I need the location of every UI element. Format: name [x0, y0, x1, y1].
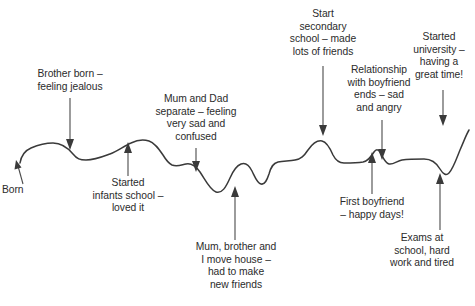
- label-exams: Exams at school, hard work and tired: [374, 232, 470, 270]
- arrow-infants-school: [124, 142, 132, 176]
- label-born: Born: [2, 184, 44, 197]
- arrow-relationship-ends: [378, 120, 386, 160]
- arrow-move-house: [231, 186, 239, 240]
- arrow-brother-born: [66, 98, 74, 150]
- arrow-mum-dad-separate: [192, 148, 200, 172]
- label-first-boyfriend: First boyfriend – happy days!: [324, 196, 420, 221]
- label-brother-born: Brother born – feeling jealous: [12, 68, 128, 93]
- label-university: Started university – having a great time…: [404, 31, 474, 81]
- label-infants-school: Started infants school – loved it: [72, 177, 184, 215]
- arrow-secondary-school: [319, 66, 327, 136]
- label-secondary-school: Start secondary school – made lots of fr…: [267, 8, 379, 58]
- label-move-house: Mum, brother and I move house – had to m…: [180, 241, 292, 291]
- life-graph-figure: Born Brother born – feeling jealous Star…: [0, 0, 475, 306]
- label-mum-dad-separate: Mum and Dad separate – feeling very sad …: [138, 93, 254, 143]
- arrow-born: [15, 160, 24, 184]
- arrow-university: [439, 90, 447, 126]
- arrow-exams: [436, 173, 444, 230]
